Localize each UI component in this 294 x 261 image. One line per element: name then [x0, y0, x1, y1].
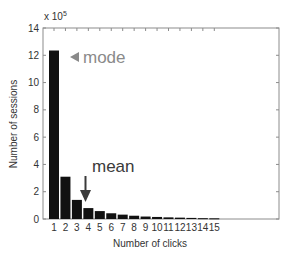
- bars: [49, 51, 219, 220]
- bar-14: [198, 218, 208, 219]
- bar-9: [141, 217, 151, 219]
- y-tick-label: 2: [33, 186, 39, 197]
- y-tick-label: 12: [28, 50, 40, 61]
- x-tick-label: 5: [97, 222, 103, 233]
- bar-7: [118, 215, 128, 219]
- bar-8: [129, 216, 139, 219]
- mode-annotation: mode: [70, 48, 126, 67]
- bar-11: [164, 217, 174, 219]
- y-tick-label: 0: [33, 214, 39, 225]
- y-tick-label: 10: [28, 77, 40, 88]
- x-tick-label: 3: [74, 222, 80, 233]
- y-tick-label: 6: [33, 132, 39, 143]
- mean-label: mean: [92, 157, 135, 176]
- y-multiplier: x 105: [44, 10, 67, 22]
- x-axis-label: Number of clicks: [113, 238, 187, 249]
- y-axis-label: Number of sessions: [8, 80, 19, 168]
- bar-2: [60, 177, 70, 219]
- x-tick-label: 8: [131, 222, 137, 233]
- bar-4: [83, 208, 93, 219]
- bar-1: [49, 51, 59, 219]
- mode-label: mode: [83, 48, 126, 67]
- bar-13: [186, 218, 196, 219]
- bar-3: [72, 200, 82, 219]
- x-tick-label: 4: [86, 222, 92, 233]
- x-tick-label: 11: [163, 222, 174, 233]
- bar-5: [95, 211, 105, 219]
- bar-6: [106, 213, 116, 219]
- x-tick-label: 12: [174, 222, 186, 233]
- y-tick-label: 8: [33, 104, 39, 115]
- y-tick-label: 14: [28, 23, 40, 34]
- x-tick-label: 1: [51, 222, 57, 233]
- x-tick-label: 13: [186, 222, 198, 233]
- x-tick-label: 10: [151, 222, 163, 233]
- x-tick-label: 7: [120, 222, 126, 233]
- bar-12: [175, 218, 185, 219]
- x-tick-label: 6: [108, 222, 114, 233]
- mean-annotation: mean: [80, 157, 135, 202]
- y-tick-label: 4: [33, 159, 39, 170]
- x-tick-label: 2: [63, 222, 69, 233]
- x-tick-label: 15: [209, 222, 221, 233]
- left-triangle-icon: [70, 52, 79, 62]
- x-tick-label: 9: [143, 222, 149, 233]
- bar-10: [152, 217, 162, 219]
- x-tick-label: 14: [197, 222, 209, 233]
- bar-chart: 02468101214 123456789101112131415 x 105 …: [0, 0, 294, 261]
- bar-15: [209, 218, 219, 219]
